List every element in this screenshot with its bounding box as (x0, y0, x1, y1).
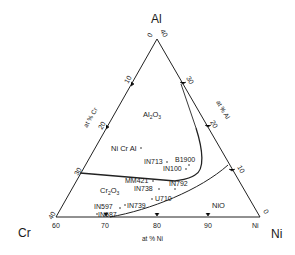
point-nicral (140, 147, 142, 149)
tick-left-40: 40 (47, 210, 57, 220)
alloy-in597: IN597 (94, 203, 113, 210)
phase-al2o3: Al2O3 (143, 110, 161, 120)
tick-bottom-70: 70 (101, 222, 109, 229)
phase-nio: NiO (212, 201, 225, 210)
alloy-u710: U710 (155, 195, 172, 202)
tick-right-10: 10 (236, 164, 246, 174)
alloy-in738: IN738 (134, 185, 153, 192)
tick-left-30: 30 (73, 166, 83, 176)
tick-right-30: 30 (185, 75, 195, 85)
phase-nicral: Ni Cr Al (111, 144, 137, 153)
axis-title-right: at % Al (215, 99, 231, 121)
boundary-al2o3-cr2o3 (80, 128, 202, 181)
corner-label-cr: Cr (18, 226, 31, 240)
alloy-in713: IN713 (144, 158, 163, 165)
alloy-points: B1900 IN713 IN100 MM421 IN792 IN738 U710… (94, 156, 195, 218)
tick-bottom-60: 60 (52, 222, 60, 229)
corner-label-al: Al (151, 12, 162, 26)
tick-left-20: 20 (97, 120, 107, 130)
axis-title-left: at % Cr (82, 106, 99, 129)
ternary-diagram: Al Cr Ni 60 70 80 90 Ni at % Ni 0 10 20 … (0, 0, 295, 255)
alloy-in587: IN587 (98, 211, 117, 218)
tick-left-0: 0 (146, 32, 154, 39)
phase-cr2o3: Cr2O3 (100, 186, 120, 196)
alloy-mm421: MM421 (125, 177, 148, 184)
tick-right-20: 20 (209, 119, 219, 129)
tick-bottom-90: 90 (204, 222, 212, 229)
tick-bottom-80: 80 (153, 222, 161, 229)
alloy-in792: IN792 (169, 180, 188, 187)
axis-title-bottom: at % Ni (142, 235, 163, 242)
alloy-in100: IN100 (163, 165, 182, 172)
corner-label-ni: Ni (271, 227, 282, 241)
tick-right-0: 0 (262, 208, 270, 215)
tick-bottom-ni: Ni (252, 222, 259, 229)
alloy-in739: IN739 (127, 202, 146, 209)
tick-right-40: 40 (159, 28, 169, 38)
boundary-al2o3-right (181, 84, 196, 128)
boundary-nio (110, 165, 228, 217)
alloy-b1900: B1900 (175, 156, 195, 163)
